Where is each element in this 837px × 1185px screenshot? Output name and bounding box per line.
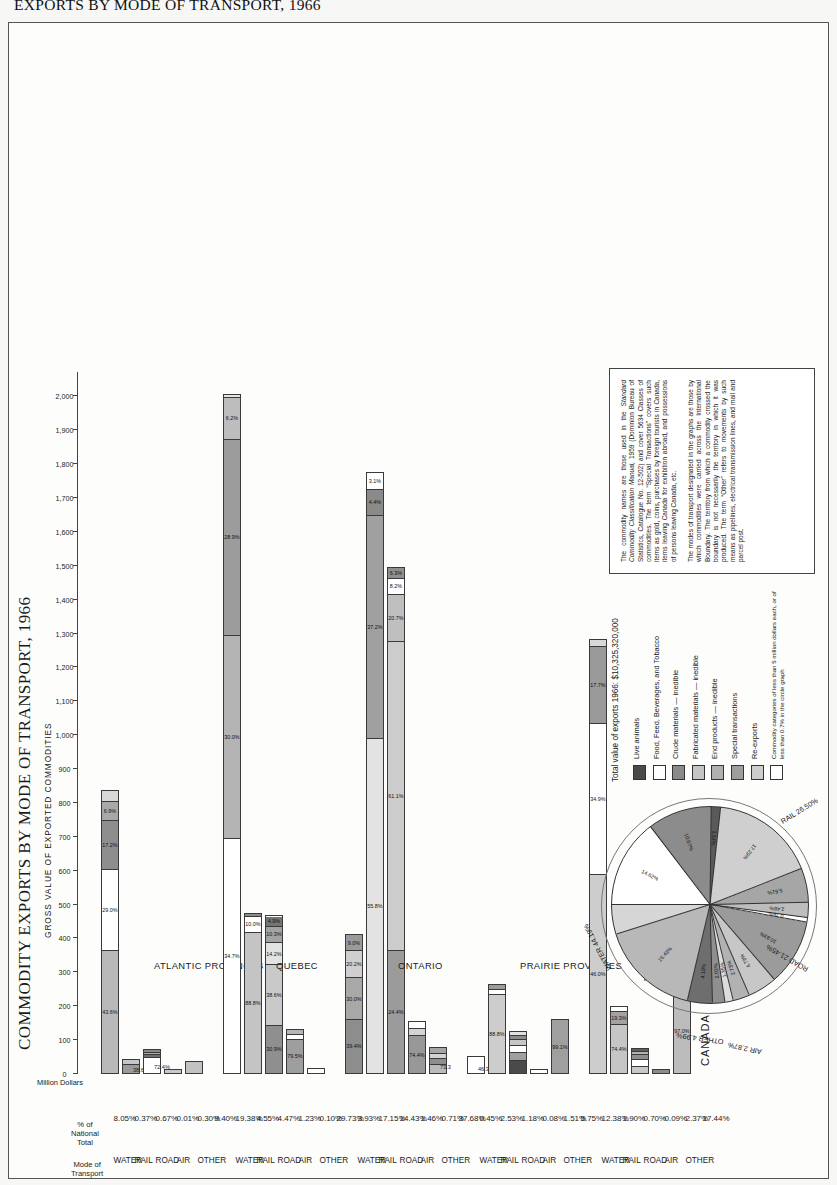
segment-pct-label: 38.6% [266, 992, 281, 998]
pct-national-total: 0.37% [135, 1114, 158, 1123]
mode-label-rail: RAIL [135, 1156, 153, 1165]
axis-tick-label: 300 [45, 968, 85, 977]
axis-tick-label: 1,100 [45, 697, 85, 706]
pie-slice-label: 5.61% [767, 887, 783, 896]
segment-pct-label: 37.2% [367, 624, 382, 630]
pie-slice-label: 4.79% [739, 954, 752, 970]
stacked-bar [164, 1069, 182, 1074]
pie-slice-label: 2.03% [712, 964, 719, 980]
axis-tick-label: 1,700 [45, 493, 85, 502]
stacked-bar: 99.1% [551, 1019, 569, 1074]
legend-label: Food, Feed, Beverages, and Tobacco [653, 636, 662, 759]
legend-swatch [692, 765, 705, 780]
stacked-bar: 55.8%37.2%4.4%3.1% [366, 472, 384, 1074]
pie-arc-label-rail: RAIL 26.50% [779, 796, 819, 826]
mode-label-other: OTHER [198, 1156, 227, 1165]
segment-pct-label: 3.1% [369, 478, 381, 484]
pie-slice-divider [710, 868, 802, 905]
segment-pct-label: 4.4% [369, 499, 381, 505]
bar-segment [287, 1030, 303, 1034]
legend-label: Commodity categories of less than 5 mill… [770, 590, 785, 759]
bar-segment: 4.9% [266, 917, 282, 926]
axis-tick-label: 1,900 [45, 426, 85, 435]
stacked-bar: 88.8% [488, 984, 506, 1074]
bar-segment [123, 1060, 139, 1064]
mode-label-air: AIR [421, 1156, 435, 1165]
axis-tick-label: 700 [45, 832, 85, 841]
axis-unit-label: Million Dollars [37, 1078, 83, 1087]
segment-pct-label: 61.1% [388, 793, 403, 799]
note1-part-b: 1959 (Dominion Bureau of Statistics, Cat… [628, 380, 676, 562]
pie-slice-label: 16.43% [656, 945, 673, 962]
legend-swatch [770, 765, 783, 780]
bar-segment: 43.6% [102, 950, 118, 1073]
mode-label-rail: RAIL [379, 1156, 397, 1165]
legend-row: Re-exports [751, 590, 764, 780]
bar-segment: 29.0% [102, 869, 118, 951]
bar-segment: 6.2% [224, 397, 240, 439]
axis-tick-label: 1,000 [45, 731, 85, 740]
pie-legend: Live animalsFood, Feed, Beverages, and T… [633, 590, 792, 780]
bar-segment: 6.9% [102, 801, 118, 820]
pct-national-total: 3.93% [358, 1114, 381, 1123]
pie-chart-block: CANADA 14.62%10.57%1.54%17.29%5.61%2.48%… [607, 592, 817, 1152]
bar-segment [510, 1060, 526, 1073]
segment-pct-label: 9.0% [348, 940, 360, 946]
mode-label-other: OTHER [442, 1156, 471, 1165]
axis-tick-label: 100 [45, 1036, 85, 1045]
stacked-bar: 30.9%38.6%14.2%10.3%4.9% [265, 915, 283, 1074]
region-name: ONTARIO [398, 960, 443, 972]
legend-row: End products — inedible [711, 590, 724, 780]
bar-segment [590, 640, 606, 646]
pie-slice-divider [612, 904, 710, 905]
region-total-pct: 5.75% [581, 1114, 604, 1123]
mode-label-rail: RAIL [257, 1156, 275, 1165]
region-name: QUEBEC [276, 960, 318, 972]
axis-tick-label: 1,200 [45, 663, 85, 672]
rotated-canvas: COMMODITY EXPORTS BY MODE OF TRANSPORT, … [9, 15, 828, 1170]
segment-pct-label: 74.4% [409, 1052, 424, 1058]
legend-label: End products — inedible [711, 678, 720, 759]
bar-segment [144, 1054, 160, 1057]
pct-national-total: 1.23% [299, 1114, 322, 1123]
bar-chart-plot: 01002003004005006007008009001,0001,1001,… [61, 368, 581, 1074]
pct-national-total: 4.47% [278, 1114, 301, 1123]
axis-tick-label: 600 [45, 866, 85, 875]
bar-segment [144, 1050, 160, 1052]
pct-national-total: 0.67% [156, 1114, 179, 1123]
legend-row: Food, Feed, Beverages, and Tobacco [653, 590, 666, 780]
bar-segment: 9.0% [346, 935, 362, 949]
bar-segment: 99.1% [552, 1020, 568, 1073]
bar-segment: 38.6% [266, 964, 282, 1024]
stacked-bar [307, 1068, 325, 1074]
axis-tick-label: 400 [45, 934, 85, 943]
axis-tick-label: 2,000 [45, 392, 85, 401]
bar-segment: 34.7% [224, 838, 240, 1073]
bar-segment [144, 1052, 160, 1054]
page-root: EXPORTS BY MODE OF TRANSPORT, 1966 COMMO… [0, 0, 837, 1185]
legend-label: Fabricated materials — inedible [692, 655, 701, 759]
bar-segment [409, 1022, 425, 1028]
legend-swatch [653, 765, 666, 780]
note-paragraph-1: The commodity names are those used in th… [620, 380, 678, 562]
segment-pct-label: 34.9% [590, 796, 605, 802]
segment-pct-label: 20.7% [388, 615, 403, 621]
legend-row: Commodity categories of less than 5 mill… [770, 590, 785, 780]
bar-segment [409, 1028, 425, 1035]
stacked-bar [530, 1069, 548, 1074]
bar-segment: 6.3% [388, 568, 404, 577]
legend-row: Fabricated materials — inedible [692, 590, 705, 780]
stacked-bar [509, 1031, 527, 1074]
mode-label-rail: RAIL [623, 1156, 641, 1165]
segment-pct-label: 99.1% [552, 1044, 567, 1050]
stacked-bar: 34.7%30.0%28.9%6.2% [223, 394, 241, 1074]
legend-label: Re-exports [751, 723, 760, 759]
bar-segment [489, 989, 505, 995]
pie-slice-label: 14.62% [641, 869, 660, 882]
segment-pct-label: 14.2% [266, 951, 281, 957]
axis-tick-label: 1,800 [45, 460, 85, 469]
legend-swatch [731, 765, 744, 780]
segment-pct-label: 17.2% [102, 842, 117, 848]
bar-segment: 30.0% [224, 635, 240, 838]
axis-tick-label: 1,600 [45, 527, 85, 536]
